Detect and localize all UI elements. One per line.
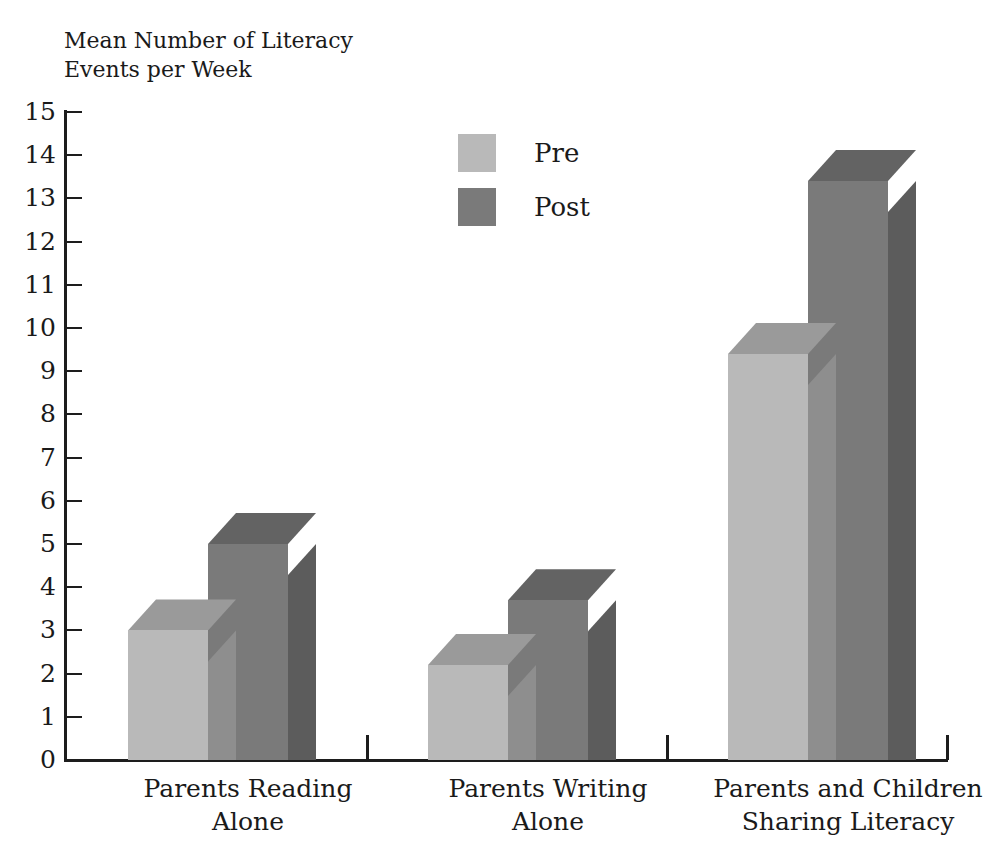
legend-item-post: Post <box>458 180 590 234</box>
y-tick-label: 9 <box>12 358 56 383</box>
bar-pre-1 <box>428 634 508 760</box>
y-tick-label: 2 <box>12 661 56 686</box>
bar-top-face <box>508 569 616 600</box>
bar-pre-2 <box>728 323 808 760</box>
bar-side-face <box>888 181 916 760</box>
legend-item-pre: Pre <box>458 126 590 180</box>
y-tick-mark <box>67 457 82 459</box>
x-category-label-0: Parents Reading Alone <box>88 772 408 838</box>
x-tick-mark <box>946 735 949 760</box>
y-tick-label: 12 <box>12 229 56 254</box>
y-tick-mark <box>67 759 82 761</box>
y-tick-mark <box>67 543 82 545</box>
chart-legend: Pre Post <box>458 126 590 234</box>
bar-front-face <box>728 354 808 760</box>
bar-pre-0 <box>128 599 208 760</box>
y-axis-line <box>64 110 67 762</box>
y-tick-label: 0 <box>12 747 56 772</box>
y-tick-label: 5 <box>12 531 56 556</box>
y-tick-label: 1 <box>12 704 56 729</box>
y-tick-mark <box>67 413 82 415</box>
cut-off-heading-text <box>60 0 760 1</box>
x-category-label-2: Parents and Children Sharing Literacy <box>688 772 990 838</box>
y-tick-mark <box>67 197 82 199</box>
legend-swatch-post <box>458 188 496 226</box>
y-tick-mark <box>67 629 82 631</box>
y-tick-label: 4 <box>12 574 56 599</box>
legend-label-pre: Pre <box>534 138 579 168</box>
y-tick-label: 8 <box>12 401 56 426</box>
bar-chart-figure: Mean Number of Literacy Events per Week … <box>0 0 990 865</box>
bar-front-face <box>428 665 508 760</box>
y-tick-mark <box>67 284 82 286</box>
bar-side-face <box>288 544 316 760</box>
legend-swatch-pre <box>458 134 496 172</box>
x-tick-mark <box>666 735 669 760</box>
y-tick-mark <box>67 370 82 372</box>
y-tick-mark <box>67 154 82 156</box>
x-category-label-1: Parents Writing Alone <box>388 772 708 838</box>
y-tick-mark <box>67 716 82 718</box>
bar-front-face <box>128 630 208 760</box>
bar-side-face <box>808 354 836 760</box>
x-tick-mark <box>366 735 369 760</box>
y-tick-mark <box>67 327 82 329</box>
bar-side-face <box>588 600 616 760</box>
y-tick-label: 11 <box>12 272 56 297</box>
y-tick-label: 6 <box>12 488 56 513</box>
legend-label-post: Post <box>534 192 590 222</box>
y-tick-label: 7 <box>12 445 56 470</box>
y-tick-label: 13 <box>12 185 56 210</box>
y-tick-mark <box>67 500 82 502</box>
y-tick-label: 3 <box>12 617 56 642</box>
bar-top-face <box>208 513 316 544</box>
y-axis-title: Mean Number of Literacy Events per Week <box>64 26 353 84</box>
y-tick-label: 15 <box>12 99 56 124</box>
y-tick-mark <box>67 586 82 588</box>
bar-top-face <box>808 150 916 181</box>
y-tick-mark <box>67 673 82 675</box>
y-tick-label: 14 <box>12 142 56 167</box>
y-tick-label: 10 <box>12 315 56 340</box>
y-tick-mark <box>67 241 82 243</box>
y-tick-mark <box>67 111 82 113</box>
